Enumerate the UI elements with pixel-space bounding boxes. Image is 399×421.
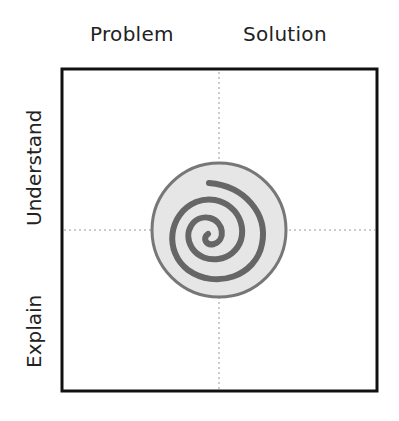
quadrant-graphic: [0, 0, 399, 421]
spiral-icon: [152, 163, 286, 297]
